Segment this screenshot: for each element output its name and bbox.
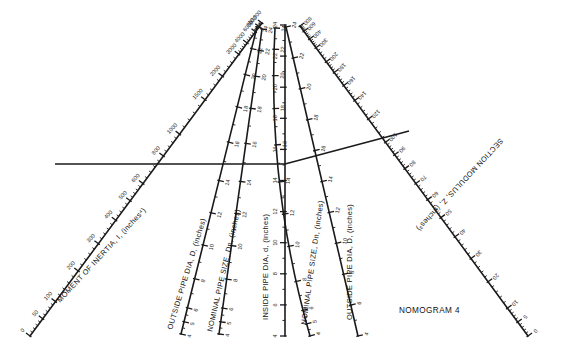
tick-label-nominal-pipe-size-right: 20 — [279, 72, 286, 79]
tick-minor — [80, 264, 82, 266]
tick-minor — [191, 293, 194, 294]
tick-label-nominal-pipe-size-right: 12 — [289, 209, 296, 216]
tick-minor — [333, 227, 336, 228]
tick-minor — [207, 229, 210, 230]
tick-label-outside-pipe-dia-left: 4 — [186, 334, 193, 338]
tick-minor — [168, 146, 170, 148]
tick-minor — [110, 223, 112, 225]
tick-label-nominal-pipe-size-left: 5 — [226, 321, 232, 325]
tick-minor — [233, 57, 235, 59]
tick-minor — [512, 312, 514, 314]
tick-label-nominal-pipe-size-left: 14 — [245, 179, 252, 186]
axis-title-nominal-pipe-size-left: NOMINAL PIPE SIZE, Dn, (inches) — [205, 208, 242, 332]
tick-label-outside-pipe-dia-left: 14 — [224, 179, 231, 187]
isopleth-segment-right[interactable] — [285, 131, 409, 164]
tick-minor — [421, 188, 423, 190]
tick-major — [278, 181, 285, 182]
axis-titles-group: MOMENT OF INERTIA, I, (inches⁴) OUTSIDE … — [55, 137, 505, 333]
tick-minor — [342, 81, 344, 83]
tick-label-moment-of-inertia: 100 — [43, 290, 54, 301]
tick-label-nominal-pipe-size-left: 22 — [264, 48, 271, 55]
tick-label-section-modulus: 10 — [511, 299, 520, 308]
tick-label-nominal-pipe-size-right: 24 — [280, 25, 287, 32]
tick-label-outside-pipe-dia-left: 16 — [233, 140, 240, 148]
tick-minor — [329, 64, 331, 66]
tick-label-nominal-pipe-size-right: 5 — [312, 320, 318, 324]
isopleth-group[interactable] — [55, 131, 409, 164]
tick-minor — [324, 57, 326, 59]
tick-minor — [520, 323, 522, 325]
tick-minor — [304, 104, 307, 105]
tick-minor — [430, 202, 432, 204]
tick-major — [179, 334, 186, 336]
tick-label-outside-pipe-dia-left: 5 — [189, 322, 196, 326]
tick-label-nominal-pipe-size-left: 4 — [224, 333, 230, 337]
tick-label-section-modulus: 5 — [522, 314, 529, 320]
tick-minor — [290, 42, 293, 43]
axis-lines-group — [30, 23, 528, 336]
tick-minor — [100, 237, 102, 239]
tick-minor — [153, 165, 155, 167]
tick-minor — [252, 32, 254, 34]
tick-minor — [36, 324, 38, 326]
tick-label-moment-of-inertia: 200 — [65, 260, 76, 271]
tick-minor — [407, 170, 409, 172]
tick-minor — [447, 224, 449, 226]
tick-minor — [292, 263, 295, 264]
tick-minor — [492, 285, 494, 287]
tick-minor — [354, 320, 357, 321]
tick-label-moment-of-inertia: 50 — [31, 309, 40, 318]
tick-minor — [485, 276, 487, 278]
tick-label-moment-of-inertia: 1500 — [191, 87, 204, 100]
tick-minor — [38, 321, 40, 323]
tick-minor — [243, 44, 245, 46]
nomogram-canvas: 0501002003004005006008001000150020003000… — [0, 0, 565, 359]
tick-minor — [210, 89, 212, 91]
tick-minor — [247, 39, 249, 41]
tick-label-moment-of-inertia: 800 — [150, 145, 161, 156]
tick-minor — [449, 228, 451, 230]
tick-label-nominal-pipe-size-right: 22 — [279, 46, 286, 53]
tick-label-section-modulus: 40 — [458, 228, 467, 237]
tick-minor — [340, 79, 342, 81]
tick-label-nominal-pipe-size-right: 10 — [294, 241, 301, 248]
tick-minor — [372, 122, 374, 124]
tick-label-outside-pipe-dia-right: 4 — [363, 332, 370, 336]
tick-label-nominal-pipe-size-left: 16 — [251, 141, 258, 148]
tick-minor — [214, 84, 216, 86]
tick-minor — [217, 79, 219, 81]
tick-label-outside-pipe-dia-left: 22 — [256, 47, 263, 55]
tick-minor — [43, 314, 45, 316]
tick-minor — [311, 39, 313, 41]
tick-minor — [393, 151, 395, 153]
tick-minor — [307, 34, 309, 36]
tick-minor — [183, 126, 185, 128]
tick-minor — [186, 315, 189, 316]
tick-label-section-modulus: 140 — [357, 90, 368, 101]
tick-minor — [311, 135, 314, 136]
tick-minor — [188, 119, 190, 121]
tick-minor — [131, 196, 133, 198]
tick-label-inside-pipe-dia: 6 — [272, 303, 278, 306]
tick-label-moment-of-inertia: 0 — [19, 327, 26, 333]
tick-minor — [444, 220, 446, 222]
tick-minor — [107, 228, 109, 230]
tick-label-moment-of-inertia: 3000 — [225, 42, 238, 55]
tick-minor — [48, 307, 50, 309]
tick-minor — [248, 37, 250, 39]
tick-minor — [522, 326, 524, 328]
tick-label-section-modulus: 0 — [532, 328, 539, 334]
tick-minor — [461, 244, 463, 246]
tick-label-inside-pipe-dia: 20 — [272, 84, 278, 90]
tick-minor — [233, 124, 236, 125]
tick-label-nominal-pipe-size-right: 18 — [279, 105, 286, 112]
tick-minor — [133, 192, 135, 194]
tick-minor — [46, 310, 48, 312]
tick-label-section-modulus: 400 — [312, 29, 323, 40]
tick-label-nominal-pipe-size-left: 20 — [260, 74, 267, 81]
tick-label-moment-of-inertia: 600 — [130, 172, 141, 183]
tick-minor — [227, 66, 229, 68]
tick-minor — [478, 266, 480, 268]
tick-label-outside-pipe-dia-left: 8 — [200, 279, 207, 283]
tick-label-outside-pipe-dia-right: 16 — [320, 145, 327, 152]
